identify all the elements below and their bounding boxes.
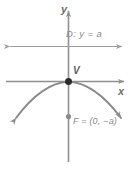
focus-label: F = (0, −a) — [73, 117, 117, 126]
figure-canvas — [0, 0, 132, 174]
parabola-figure: y x V D: y = a F = (0, −a) — [0, 0, 132, 174]
vertex-label: V — [73, 66, 80, 76]
directrix-label: D: y = a — [66, 29, 102, 39]
focus-point — [66, 114, 71, 119]
y-axis-label: y — [61, 4, 67, 15]
vertex-point — [65, 78, 72, 85]
x-axis-label: x — [118, 86, 124, 97]
